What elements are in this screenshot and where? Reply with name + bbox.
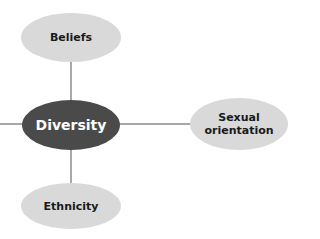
- node-diversity-label: Diversity: [36, 119, 107, 132]
- node-sexual-orientation-line1: Sexual: [218, 111, 260, 124]
- node-diversity: Diversity: [22, 100, 120, 150]
- node-sexual-orientation-line2: orientation: [204, 124, 273, 137]
- node-beliefs-label: Beliefs: [50, 31, 92, 44]
- node-ethnicity-label: Ethnicity: [44, 200, 99, 213]
- node-beliefs: Beliefs: [21, 13, 121, 62]
- node-sexual-orientation: Sexual orientation: [190, 98, 288, 150]
- node-ethnicity: Ethnicity: [21, 183, 121, 229]
